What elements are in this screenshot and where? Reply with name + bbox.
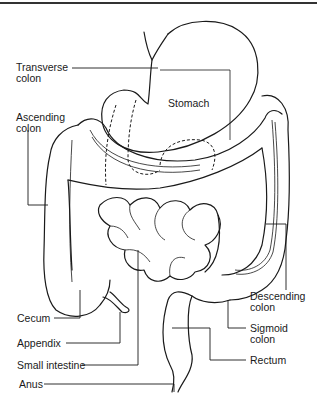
label-stomach: Stomach xyxy=(168,98,209,109)
pancreas-dashed xyxy=(160,140,215,170)
leader-small-intestine xyxy=(82,250,138,365)
small-intestine-fold-4 xyxy=(125,250,150,262)
esophagus xyxy=(144,32,168,60)
small-intestine-fold-1 xyxy=(130,205,140,230)
label-sigmoid-colon: Sigmoid colon xyxy=(250,323,288,345)
label-descending-colon: Descending colon xyxy=(250,291,305,313)
label-small-intestine: Small intestine xyxy=(17,360,85,371)
leader-sigmoid-colon xyxy=(228,300,246,328)
label-rectum: Rectum xyxy=(250,355,286,366)
small-intestine-fold-5 xyxy=(170,257,185,276)
descending-colon-band-2 xyxy=(236,122,278,274)
transverse-colon-lower xyxy=(68,148,262,189)
small-intestine xyxy=(98,198,220,282)
small-intestine-fold-3 xyxy=(182,210,195,240)
label-appendix: Appendix xyxy=(17,338,61,349)
leader-rectum xyxy=(172,328,246,360)
duodenum-dashed xyxy=(105,105,116,185)
label-anus: Anus xyxy=(19,379,43,390)
small-intestine-fold-6 xyxy=(110,226,128,238)
small-intestine-fold-2 xyxy=(155,208,165,240)
label-ascending-colon: Ascending colon xyxy=(16,112,65,134)
sigmoid-colon xyxy=(163,215,230,392)
leader-cecum xyxy=(54,290,80,318)
stomach xyxy=(102,21,258,152)
leader-anus xyxy=(44,384,174,392)
label-cecum: Cecum xyxy=(17,313,50,324)
label-transverse-colon: Transverse colon xyxy=(16,62,68,84)
duodenum-dashed-2 xyxy=(128,100,160,174)
rectum xyxy=(178,296,192,392)
ascending-colon xyxy=(44,125,110,316)
